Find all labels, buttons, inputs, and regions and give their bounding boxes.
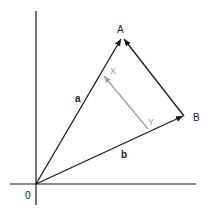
vector-yx-arrow [104, 76, 148, 129]
vector-ba-arrow [124, 39, 184, 116]
vector-a-arrow [36, 39, 121, 184]
point-y-label: Y [148, 117, 154, 127]
origin-label: 0 [25, 190, 31, 201]
point-x-label: X [110, 66, 116, 76]
point-a-label: A [117, 24, 124, 35]
vector-diagram: A B 0 a b X Y [0, 0, 214, 216]
vector-a-label: a [75, 93, 81, 104]
point-b-label: B [193, 112, 200, 123]
vector-b-label: b [121, 149, 127, 160]
vector-b-arrow [36, 116, 183, 184]
